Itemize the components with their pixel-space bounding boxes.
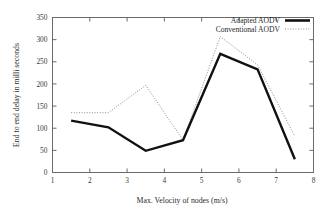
x-tick-label: 1 — [51, 176, 55, 185]
x-tick-label: 5 — [200, 176, 204, 185]
x-tick-label: 8 — [312, 176, 316, 185]
y-tick-label: 350 — [36, 13, 47, 22]
y-axis-title: End to end delay in milli seconds — [12, 43, 21, 147]
y-tick-label: 100 — [36, 124, 47, 133]
legend-item-conventional-aodv: Conventional AODV — [216, 25, 281, 34]
y-tick-label: 0 — [44, 168, 48, 177]
x-tick-label: 2 — [88, 176, 92, 185]
x-tick-label: 6 — [237, 176, 241, 185]
x-tick-label: 4 — [163, 176, 167, 185]
y-tick-label: 50 — [40, 146, 48, 155]
y-tick-label: 200 — [36, 80, 47, 89]
x-axis-title: Max. Velocity of nodes (m/s) — [136, 196, 227, 205]
line-chart: 050100150200250300350 12345678 Max. Velo… — [0, 0, 334, 211]
chart-figure: 050100150200250300350 12345678 Max. Velo… — [0, 0, 334, 211]
y-tick-label: 150 — [36, 102, 47, 111]
y-tick-label: 300 — [36, 35, 47, 44]
x-tick-label: 7 — [274, 176, 278, 185]
y-tick-label: 250 — [36, 57, 47, 66]
x-tick-label: 3 — [125, 176, 129, 185]
